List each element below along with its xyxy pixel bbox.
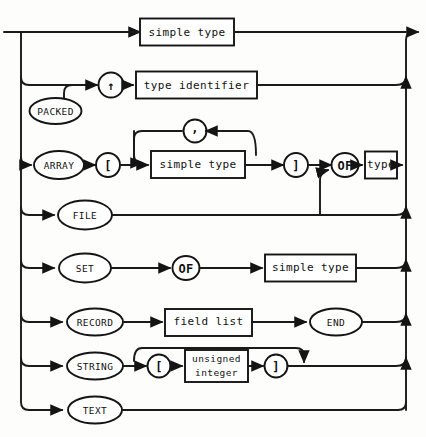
conn-row8-out <box>288 358 407 366</box>
node-simple-type-3-label: simple type <box>272 261 349 274</box>
branch-simple-type: simple type <box>21 19 406 46</box>
node-simple-type-2-label: simple type <box>159 158 236 171</box>
conn-row6-out <box>356 260 406 268</box>
node-set-label: SET <box>76 263 94 274</box>
node-lbracket-string-label: [ <box>155 360 163 374</box>
node-file-label: FILE <box>73 210 97 221</box>
branch-array: ARRAY [ , simple type ] OF type <box>21 120 402 180</box>
branch-string: STRING [ unsigned integer ] <box>21 348 406 382</box>
branch-record: RECORD field list END <box>21 309 406 337</box>
node-caret-label: ↑ <box>107 79 115 93</box>
left-distribution-rail <box>21 32 62 410</box>
branch-packed: PACKED <box>30 85 82 124</box>
conn-row5-in <box>21 207 54 215</box>
node-of-set-label: OF <box>178 262 193 276</box>
conn-file-to-of-riser <box>320 170 328 215</box>
node-string-label: STRING <box>77 361 114 372</box>
conn-row4-in <box>21 157 31 165</box>
conn-row7-out <box>362 314 406 322</box>
conn-row7-in <box>21 314 62 322</box>
right-rail-bottom-corner <box>396 402 406 410</box>
node-simple-type-1-label: simple type <box>148 26 225 39</box>
node-packed-label: PACKED <box>37 106 74 117</box>
node-type-identifier-label: type identifier <box>144 79 249 92</box>
conn-row2-in <box>21 77 97 85</box>
node-unsigned-integer-label-line1: unsigned <box>192 353 241 364</box>
conn-row6-in <box>21 260 54 268</box>
branch-text: TEXT <box>29 397 398 424</box>
conn-row2-out <box>257 77 406 85</box>
conn-row8-in <box>21 358 62 366</box>
right-collection-rail <box>406 32 418 410</box>
branch-set: SET OF simple type <box>21 254 406 283</box>
node-comma-label: , <box>191 121 199 135</box>
node-record-label: RECORD <box>77 317 114 328</box>
node-end-label: END <box>327 317 345 328</box>
node-unsigned-integer-label-line2: integer <box>195 367 238 378</box>
node-array-label: ARRAY <box>44 160 75 171</box>
syntax-diagram: simple type ↑ type identifier PACKED ARR… <box>0 0 426 437</box>
node-field-list-label: field list <box>173 315 243 328</box>
node-rbracket-string-label: ] <box>272 360 280 374</box>
node-rbracket-array-label: ] <box>292 159 300 173</box>
railroad-diagram-canvas: simple type ↑ type identifier PACKED ARR… <box>0 0 426 437</box>
node-of-array-label: OF <box>337 159 352 173</box>
node-lbracket-array-label: [ <box>104 159 112 173</box>
node-type-label: type <box>367 158 395 171</box>
conn-row5-out <box>112 207 406 215</box>
node-text-label: TEXT <box>83 405 107 416</box>
